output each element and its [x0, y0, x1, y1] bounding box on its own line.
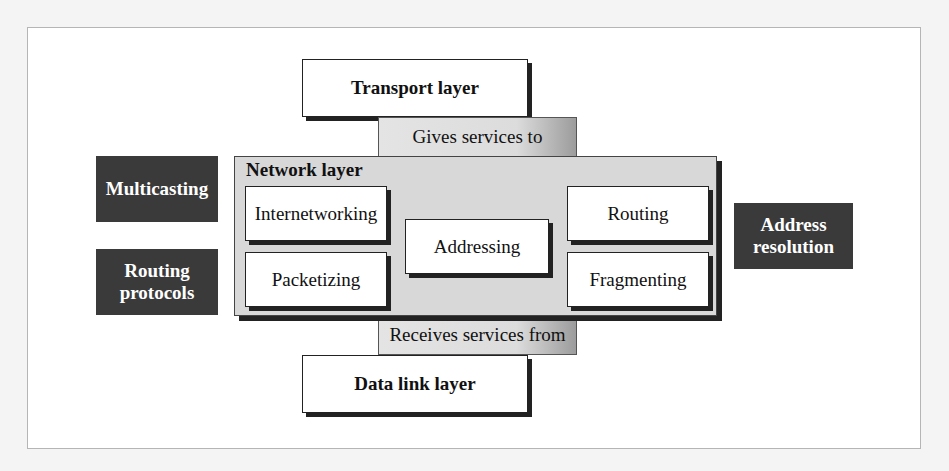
- multicasting-label: Multicasting: [106, 178, 208, 200]
- routing-label: Routing: [607, 203, 668, 225]
- addressing-box: Addressing: [405, 219, 549, 274]
- routing-protocols-label-2: protocols: [120, 282, 195, 304]
- fragmenting-label: Fragmenting: [589, 269, 686, 291]
- internetworking-label: Internetworking: [255, 203, 377, 225]
- routing-box: Routing: [567, 186, 709, 241]
- data-link-label: Data link layer: [354, 373, 475, 395]
- gives-services-connector: Gives services to: [378, 117, 577, 157]
- address-resolution-label-1: Address: [760, 214, 826, 236]
- gives-services-label: Gives services to: [413, 126, 543, 148]
- network-layer-label: Network layer: [246, 159, 363, 181]
- addressing-label: Addressing: [434, 236, 521, 258]
- address-resolution-box: Address resolution: [734, 203, 853, 269]
- routing-protocols-box: Routing protocols: [96, 249, 218, 315]
- receives-services-connector: Receives services from: [378, 315, 577, 355]
- receives-services-label: Receives services from: [389, 324, 565, 346]
- data-link-layer-box: Data link layer: [302, 355, 528, 413]
- fragmenting-box: Fragmenting: [567, 252, 709, 307]
- packetizing-box: Packetizing: [245, 252, 387, 307]
- transport-layer-box: Transport layer: [302, 59, 528, 117]
- transport-label: Transport layer: [351, 77, 479, 99]
- multicasting-box: Multicasting: [96, 156, 218, 222]
- packetizing-label: Packetizing: [272, 269, 361, 291]
- routing-protocols-label-1: Routing: [124, 260, 189, 282]
- internetworking-box: Internetworking: [245, 186, 387, 241]
- address-resolution-label-2: resolution: [753, 236, 834, 258]
